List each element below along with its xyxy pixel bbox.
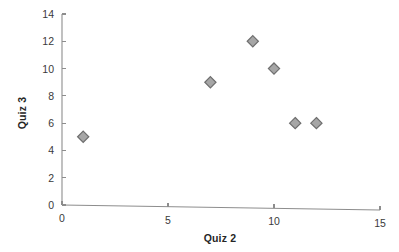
x-tick-label: 0 xyxy=(59,213,65,224)
axes-group xyxy=(62,14,380,210)
data-point-marker xyxy=(268,63,279,74)
data-points-group xyxy=(78,36,322,143)
y-tick-label: 4 xyxy=(30,145,54,156)
data-point-marker xyxy=(311,118,322,129)
y-axis-title: Quiz 3 xyxy=(17,97,28,130)
data-point-marker xyxy=(78,131,89,142)
data-point-marker xyxy=(205,77,216,88)
data-point-marker xyxy=(290,118,301,129)
x-tick-label: 15 xyxy=(374,218,386,229)
tick-marks-group xyxy=(62,14,380,210)
x-tick-label: 10 xyxy=(268,216,280,227)
y-tick-label: 6 xyxy=(30,118,54,129)
y-tick-label: 14 xyxy=(30,9,54,20)
x-axis-title: Quiz 2 xyxy=(204,233,237,244)
y-tick-label: 8 xyxy=(30,91,54,102)
y-tick-label: 0 xyxy=(30,200,54,211)
y-tick-label: 2 xyxy=(30,172,54,183)
scatter-chart: 02468101214 051015 Quiz 2 Quiz 3 xyxy=(0,0,399,252)
y-tick-label: 10 xyxy=(30,63,54,74)
x-tick-label: 5 xyxy=(165,215,171,226)
y-tick-label: 12 xyxy=(30,36,54,47)
data-point-marker xyxy=(247,36,258,47)
x-axis-line xyxy=(62,205,380,210)
